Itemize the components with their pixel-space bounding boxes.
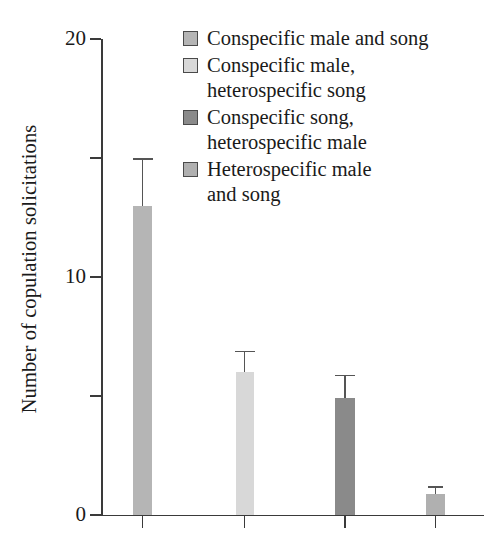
y-tick-label-0: 0 <box>42 504 86 525</box>
x-tick-3 <box>435 516 437 528</box>
bar <box>236 372 254 515</box>
bar <box>335 398 355 515</box>
y-tick-15 <box>90 157 101 159</box>
error-bar-stem <box>344 375 346 399</box>
y-tick-label-10: 10 <box>42 266 86 287</box>
legend-label: Conspecific song, heterospecific male <box>207 105 367 156</box>
error-bar-stem <box>244 351 246 372</box>
bar <box>133 206 152 515</box>
y-tick-20 <box>90 38 101 40</box>
y-tick-0 <box>90 514 101 516</box>
y-axis-title: Number of copulation solicitations <box>12 19 46 519</box>
x-tick-0 <box>142 516 144 528</box>
error-bar-cap <box>428 486 443 488</box>
y-tick-5 <box>90 395 101 397</box>
legend-label: Conspecific male and song <box>207 26 428 52</box>
error-bar-cap <box>235 351 255 353</box>
y-axis-line <box>101 39 103 516</box>
legend-item: Conspecific song, heterospecific male <box>183 105 483 156</box>
legend: Conspecific male and songConspecific mal… <box>183 26 483 209</box>
y-tick-10 <box>90 276 101 278</box>
bar-chart-figure: Number of copulation solicitations 01020… <box>0 0 489 549</box>
legend-swatch-icon <box>183 31 198 46</box>
bar <box>426 494 445 515</box>
legend-swatch-icon <box>183 162 198 177</box>
x-tick-2 <box>344 516 346 528</box>
error-bar-cap <box>133 158 153 160</box>
error-bar-stem <box>142 158 144 206</box>
x-tick-1 <box>244 516 246 528</box>
legend-item: Conspecific male, heterospecific song <box>183 53 483 104</box>
legend-swatch-icon <box>183 110 198 125</box>
legend-item: Conspecific male and song <box>183 26 483 52</box>
legend-label: Heterospecific male and song <box>207 157 371 208</box>
legend-item: Heterospecific male and song <box>183 157 483 208</box>
legend-label: Conspecific male, heterospecific song <box>207 53 366 104</box>
error-bar-cap <box>335 375 355 377</box>
y-tick-label-20: 20 <box>42 28 86 49</box>
legend-swatch-icon <box>183 58 198 73</box>
